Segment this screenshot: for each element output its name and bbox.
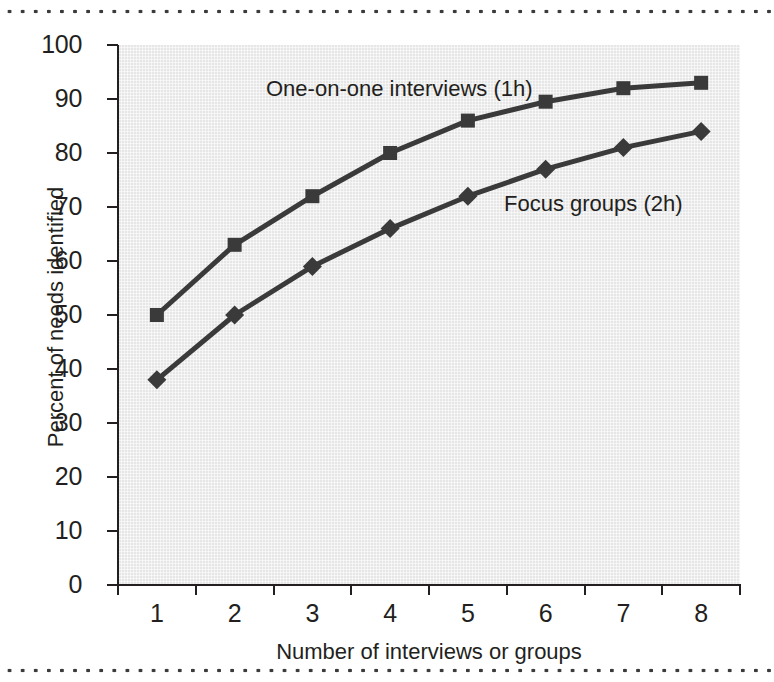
series-annotation-one-on-one-interviews: One-on-one interviews (1h) — [266, 78, 533, 100]
x-axis-tick-label: 3 — [292, 601, 332, 626]
x-axis-tick-label: 5 — [448, 601, 488, 626]
y-axis-tick — [107, 476, 118, 478]
x-axis-tick — [273, 584, 275, 595]
data-point-marker-diamond — [458, 187, 477, 206]
x-axis-tick-label: 8 — [681, 601, 721, 626]
data-point-marker-diamond — [381, 219, 400, 238]
x-axis-tick — [739, 584, 741, 595]
x-axis-tick-label: 4 — [370, 601, 410, 626]
y-axis-tick-label: 100 — [41, 32, 82, 57]
data-point-marker-square — [539, 95, 553, 109]
x-axis-title: Number of interviews or groups — [118, 641, 740, 663]
data-point-marker-square — [694, 76, 708, 90]
x-axis-tick — [350, 584, 352, 595]
y-axis-tick — [107, 206, 118, 208]
y-axis-tick — [107, 260, 118, 262]
y-axis-title: Percent of needs identified — [45, 107, 67, 527]
series-focus-groups — [147, 122, 710, 389]
plot-series-layer — [118, 45, 740, 585]
x-axis-tick-label: 1 — [137, 601, 177, 626]
y-axis-tick — [107, 368, 118, 370]
x-axis-tick — [195, 584, 197, 595]
data-point-marker-square — [461, 114, 475, 128]
data-point-marker-square — [616, 81, 630, 95]
x-axis-tick — [117, 584, 119, 595]
data-point-marker-diamond — [614, 138, 633, 157]
x-axis-tick — [428, 584, 430, 595]
y-axis-tick — [107, 152, 118, 154]
data-point-marker-square — [150, 308, 164, 322]
y-axis-tick — [107, 44, 118, 46]
x-axis-tick-label: 6 — [526, 601, 566, 626]
y-axis-tick-label: 0 — [68, 572, 82, 597]
x-axis-tick — [584, 584, 586, 595]
x-axis-tick-label: 7 — [603, 601, 643, 626]
x-axis-tick — [661, 584, 663, 595]
data-point-marker-diamond — [536, 160, 555, 179]
data-point-marker-diamond — [692, 122, 711, 141]
series-annotation-focus-groups: Focus groups (2h) — [504, 193, 683, 215]
y-axis-tick — [107, 530, 118, 532]
x-axis-tick-label: 2 — [215, 601, 255, 626]
series-line — [157, 131, 701, 379]
y-axis-tick — [107, 98, 118, 100]
y-axis-tick — [107, 314, 118, 316]
data-point-marker-square — [305, 189, 319, 203]
data-point-marker-square — [383, 146, 397, 160]
data-point-marker-square — [228, 238, 242, 252]
y-axis-tick — [107, 422, 118, 424]
line-chart-figure: 0102030405060708090100 12345678 Percent … — [0, 0, 774, 682]
x-axis-tick — [506, 584, 508, 595]
